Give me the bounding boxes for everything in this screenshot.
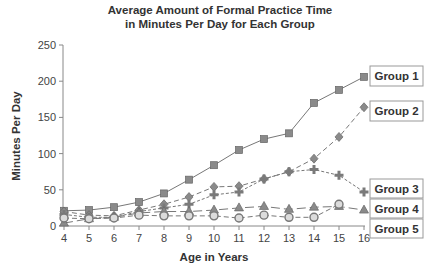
circle-marker [210, 212, 218, 220]
square-marker [161, 190, 168, 197]
plus-marker [210, 190, 219, 199]
x-axis-label: Age in Years [180, 251, 249, 263]
x-tick-label: 6 [111, 232, 117, 244]
triangle-marker [260, 201, 269, 209]
x-tick-label: 4 [61, 232, 67, 244]
circle-marker [285, 213, 293, 221]
square-marker [186, 176, 193, 183]
legend-label-group-5: Group 5 [374, 223, 419, 235]
y-tick-label: 150 [38, 111, 56, 123]
y-tick-label: 250 [38, 39, 56, 51]
circle-marker [235, 214, 243, 222]
diamond-marker [310, 154, 318, 163]
y-tick-label: 100 [38, 148, 56, 160]
x-tick-label: 7 [136, 232, 142, 244]
circle-marker [135, 211, 143, 219]
diamond-marker [210, 182, 218, 191]
y-tick-label: 200 [38, 75, 56, 87]
legend-label-group-1: Group 1 [374, 70, 419, 82]
plus-marker [335, 171, 344, 180]
x-tick-label: 8 [161, 232, 167, 244]
y-axis-label: Minutes Per Day [10, 91, 22, 181]
circle-marker [310, 213, 318, 221]
x-tick-label: 5 [86, 232, 92, 244]
circle-marker [60, 214, 68, 222]
legend-label-group-3: Group 3 [374, 183, 418, 195]
circle-marker [160, 212, 168, 220]
square-marker [236, 146, 243, 153]
x-tick-label: 16 [358, 232, 370, 244]
y-tick-label: 0 [50, 220, 56, 232]
x-tick-label: 14 [308, 232, 320, 244]
circle-marker [260, 211, 268, 219]
square-marker [136, 199, 143, 206]
square-marker [111, 204, 118, 211]
circle-marker [185, 212, 193, 220]
square-marker [211, 162, 218, 169]
plus-marker [260, 174, 269, 183]
x-tick-label: 12 [258, 232, 270, 244]
circle-marker [110, 214, 118, 222]
triangle-marker [310, 202, 319, 210]
square-marker [336, 86, 343, 93]
triangle-marker [360, 205, 369, 213]
plus-marker [285, 167, 294, 176]
circle-marker [335, 200, 343, 208]
square-marker [361, 73, 368, 80]
triangle-marker [285, 204, 294, 212]
legend-label-group-4: Group 4 [374, 203, 419, 215]
x-tick-label: 9 [186, 232, 192, 244]
x-tick-label: 15 [333, 232, 345, 244]
series-line-group-5 [64, 204, 339, 218]
circle-marker [85, 215, 93, 223]
diamond-marker [360, 103, 368, 112]
legend-label-group-2: Group 2 [374, 105, 418, 117]
plus-marker [360, 187, 369, 196]
triangle-marker [235, 203, 244, 211]
x-tick-label: 10 [208, 232, 220, 244]
x-tick-label: 13 [283, 232, 295, 244]
square-marker [286, 130, 293, 137]
plus-marker [235, 187, 244, 196]
square-marker [311, 99, 318, 106]
line-chart: 05010015020025045678910111213141516Age i… [0, 0, 436, 272]
x-tick-label: 11 [233, 232, 244, 244]
y-tick-label: 50 [44, 184, 56, 196]
plus-marker [310, 165, 319, 174]
square-marker [261, 136, 268, 143]
